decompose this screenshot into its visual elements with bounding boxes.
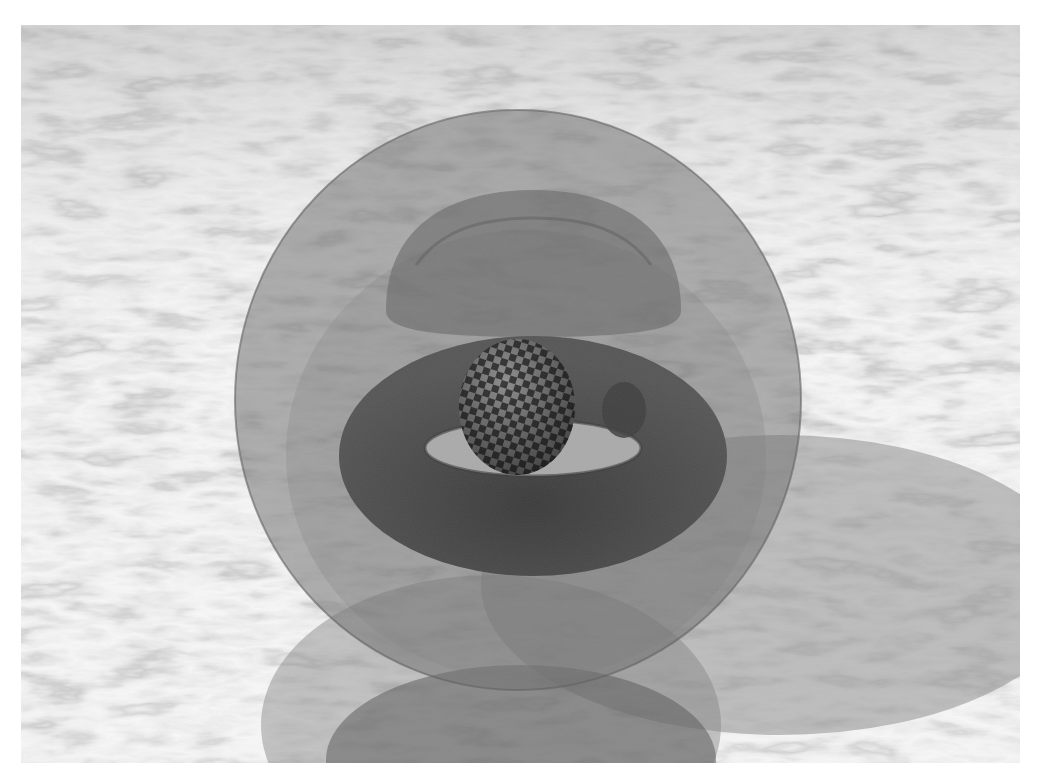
render-grain bbox=[21, 25, 1020, 763]
scene-canvas bbox=[21, 25, 1020, 763]
rendered-scene bbox=[21, 25, 1020, 763]
